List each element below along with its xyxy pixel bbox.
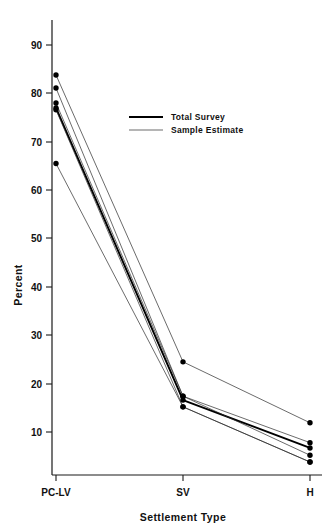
data-point-marker — [180, 394, 185, 399]
y-tick-label-10: 10 — [31, 427, 43, 438]
y-tick-label-60: 60 — [31, 185, 43, 196]
data-point-marker — [53, 100, 58, 105]
chart-svg: 90 80 70 60 50 40 30 20 10 Percent PC-LV… — [0, 0, 326, 528]
data-point-marker — [307, 459, 312, 464]
y-tick-label-90: 90 — [31, 40, 43, 51]
x-tick-label-sv: SV — [176, 487, 190, 498]
data-point-marker — [53, 107, 58, 112]
chart-legend: Total Survey Sample Estimate — [129, 112, 244, 135]
y-axis-ticks — [46, 45, 52, 432]
y-tick-label-30: 30 — [31, 330, 43, 341]
x-tick-label-pc-lv: PC-LV — [41, 487, 71, 498]
data-point-marker — [180, 359, 185, 364]
x-axis-title: Settlement Type — [140, 511, 226, 523]
x-tick-label-h: H — [306, 487, 313, 498]
legend-label-total-survey: Total Survey — [171, 112, 225, 122]
x-axis-ticks — [56, 475, 310, 481]
y-tick-label-40: 40 — [31, 282, 43, 293]
y-tick-label-80: 80 — [31, 88, 43, 99]
y-axis-title: Percent — [12, 264, 24, 305]
data-point-marker — [307, 440, 312, 445]
y-tick-label-20: 20 — [31, 379, 43, 390]
data-point-marker — [53, 72, 58, 77]
data-point-marker — [53, 85, 58, 90]
legend-label-sample-estimate: Sample Estimate — [171, 125, 244, 135]
data-point-marker — [307, 453, 312, 458]
data-point-marker — [307, 445, 312, 450]
series-line — [56, 88, 310, 443]
chart-figure: 90 80 70 60 50 40 30 20 10 Percent PC-LV… — [0, 0, 326, 528]
series-line — [56, 164, 310, 462]
y-tick-label-50: 50 — [31, 233, 43, 244]
data-point-marker — [53, 161, 58, 166]
y-tick-label-70: 70 — [31, 137, 43, 148]
data-point-marker — [307, 420, 312, 425]
data-point-marker — [180, 404, 185, 409]
